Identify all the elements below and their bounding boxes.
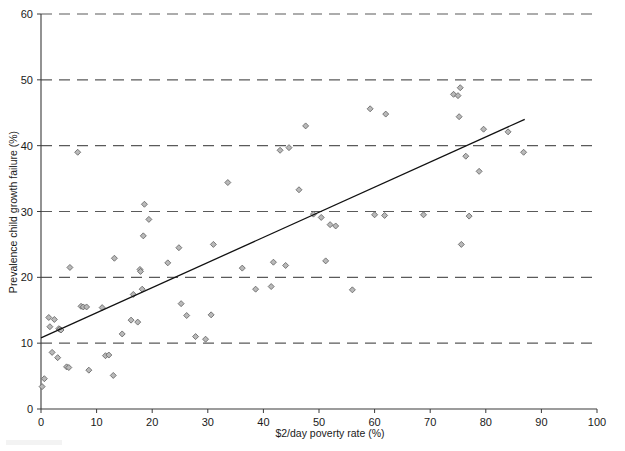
data-point: [111, 255, 117, 261]
data-point: [481, 126, 487, 132]
data-point: [176, 245, 182, 251]
x-tick-label-70: 70: [424, 416, 436, 428]
data-point: [349, 287, 355, 293]
y-tick-label-20: 20: [21, 271, 33, 283]
x-tick-label-10: 10: [90, 416, 102, 428]
data-point: [46, 314, 52, 320]
x-tick-label-0: 0: [38, 416, 44, 428]
data-point: [239, 265, 245, 271]
data-point: [178, 301, 184, 307]
data-point: [184, 313, 190, 319]
y-tick-label-10: 10: [21, 337, 33, 349]
x-axis-title: $2/day poverty rate (%): [275, 427, 384, 439]
x-tick-label-30: 30: [202, 416, 214, 428]
data-point: [327, 222, 333, 228]
scan-artifact: [6, 440, 62, 445]
data-point: [128, 317, 134, 323]
data-point: [283, 262, 289, 268]
data-point: [296, 187, 302, 193]
data-point: [367, 106, 373, 112]
data-point: [383, 111, 389, 117]
data-point: [225, 180, 231, 186]
data-point: [41, 376, 47, 382]
data-point: [372, 212, 378, 218]
x-tick-label-20: 20: [146, 416, 158, 428]
y-tick-label-0: 0: [27, 403, 33, 415]
regression-line: [41, 119, 525, 338]
data-point: [277, 147, 283, 153]
data-point: [67, 264, 73, 270]
scatter-plot: 0102030405060708090100 0102030405060 $2/…: [0, 0, 625, 451]
y-axis-title: Prevalence child growth failure (%): [7, 131, 19, 293]
data-point: [333, 223, 339, 229]
chart-figure: 0102030405060708090100 0102030405060 $2/…: [0, 0, 625, 451]
x-tick-label-40: 40: [257, 416, 269, 428]
data-point: [458, 241, 464, 247]
data-point: [208, 312, 214, 318]
data-point: [75, 149, 81, 155]
data-point: [86, 367, 92, 373]
y-axis-tick-labels: 0102030405060: [21, 8, 33, 415]
data-point: [146, 216, 152, 222]
data-point: [303, 123, 309, 129]
data-point: [135, 319, 141, 325]
data-point: [268, 284, 274, 290]
y-tick-label-40: 40: [21, 140, 33, 152]
data-point: [51, 316, 57, 322]
data-point: [210, 241, 216, 247]
data-point: [456, 114, 462, 120]
data-points: [39, 85, 526, 390]
data-point: [286, 145, 292, 151]
data-point: [47, 324, 53, 330]
data-point: [476, 168, 482, 174]
data-point: [463, 153, 469, 159]
data-point: [119, 331, 125, 337]
data-point: [270, 259, 276, 265]
data-point: [382, 212, 388, 218]
data-point: [203, 336, 209, 342]
data-point: [457, 85, 463, 91]
data-point: [140, 233, 146, 239]
data-point: [110, 372, 116, 378]
gridlines: [41, 14, 597, 343]
data-point: [466, 213, 472, 219]
data-point: [55, 355, 61, 361]
x-tick-label-80: 80: [480, 416, 492, 428]
data-point: [141, 201, 147, 207]
data-point: [253, 286, 259, 292]
data-point: [421, 212, 427, 218]
data-point: [49, 349, 55, 355]
x-tick-label-90: 90: [535, 416, 547, 428]
trend-line: [41, 119, 525, 338]
data-point: [505, 129, 511, 135]
y-tick-label-60: 60: [21, 8, 33, 20]
data-point: [39, 384, 45, 390]
data-point: [318, 214, 324, 220]
data-point: [521, 149, 527, 155]
y-tick-label-50: 50: [21, 74, 33, 86]
data-point: [323, 258, 329, 264]
x-tick-label-100: 100: [588, 416, 606, 428]
data-point: [193, 334, 199, 340]
y-tick-label-30: 30: [21, 206, 33, 218]
data-point: [165, 260, 171, 266]
